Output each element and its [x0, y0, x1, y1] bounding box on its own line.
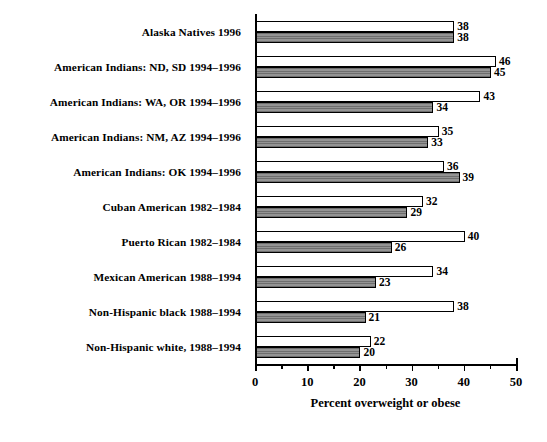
bar-value-label: 32 — [423, 196, 438, 207]
bar-white — [256, 161, 444, 172]
bar-value-label: 26 — [392, 242, 407, 253]
bar-white — [256, 21, 454, 32]
x-axis-major-tick — [464, 365, 466, 371]
category-label: American Indians: NM, AZ 1994–1996 — [0, 131, 241, 143]
x-axis-end-cap — [516, 358, 518, 365]
bar-gray — [256, 242, 392, 253]
x-axis-tick-label: 20 — [339, 375, 379, 389]
x-axis-minor-tick — [386, 365, 388, 369]
x-axis-major-tick — [255, 365, 257, 371]
bar-value-label: 35 — [439, 126, 454, 137]
bar-value-label: 38 — [454, 21, 469, 32]
x-axis-tick-label: 10 — [287, 375, 327, 389]
bar-value-label: 40 — [465, 231, 480, 242]
x-axis-major-tick — [307, 365, 309, 371]
category-label: American Indians: ND, SD 1994–1996 — [0, 61, 241, 73]
category-label: American Indians: OK 1994–1996 — [0, 166, 241, 178]
category-label: Non-Hispanic white, 1988–1994 — [0, 341, 241, 353]
bar-gray — [256, 277, 376, 288]
bar-value-label: 39 — [460, 172, 475, 183]
x-axis-major-tick — [412, 365, 414, 371]
bar-value-label: 33 — [428, 137, 443, 148]
bar-white — [256, 56, 496, 67]
bar-chart: Alaska Natives 1996American Indians: ND,… — [0, 0, 547, 442]
bar-value-label: 38 — [454, 301, 469, 312]
bar-white — [256, 336, 371, 347]
x-axis-major-tick — [359, 365, 361, 371]
bar-value-label: 46 — [496, 56, 511, 67]
x-axis-minor-tick — [281, 365, 283, 369]
x-axis-minor-tick — [438, 365, 440, 369]
category-label: Mexican American 1988–1994 — [0, 271, 241, 283]
bar-value-label: 29 — [407, 207, 422, 218]
category-label: Cuban American 1982–1984 — [0, 201, 241, 213]
bar-gray — [256, 32, 454, 43]
x-axis-tick-label: 40 — [444, 375, 484, 389]
category-label: Alaska Natives 1996 — [0, 26, 241, 38]
bar-value-label: 36 — [444, 161, 459, 172]
plot-area: 3838464543343533363932294026342338212220… — [255, 14, 516, 364]
bar-white — [256, 266, 433, 277]
x-axis-minor-tick — [490, 365, 492, 369]
bar-value-label: 45 — [491, 67, 506, 78]
bar-value-label: 43 — [480, 91, 495, 102]
bar-white — [256, 91, 480, 102]
bar-value-label: 34 — [433, 102, 448, 113]
bar-gray — [256, 207, 407, 218]
category-label: Puerto Rican 1982–1984 — [0, 236, 241, 248]
bar-white — [256, 196, 423, 207]
bar-white — [256, 126, 439, 137]
bar-value-label: 34 — [433, 266, 448, 277]
x-axis-tick-label: 0 — [235, 375, 275, 389]
bar-gray — [256, 172, 460, 183]
category-label: American Indians: WA, OR 1994–1996 — [0, 96, 241, 108]
bar-gray — [256, 312, 366, 323]
x-axis-title: Percent overweight or obese — [255, 396, 516, 411]
bar-value-label: 21 — [366, 312, 381, 323]
x-axis-tick-label: 50 — [496, 375, 536, 389]
bar-gray — [256, 137, 428, 148]
x-axis-major-tick — [516, 365, 518, 371]
bar-value-label: 22 — [371, 336, 386, 347]
x-axis-tick-label: 30 — [392, 375, 432, 389]
bar-gray — [256, 67, 491, 78]
bar-gray — [256, 347, 360, 358]
bar-value-label: 23 — [376, 277, 391, 288]
category-label: Non-Hispanic black 1988–1994 — [0, 306, 241, 318]
bar-white — [256, 231, 465, 242]
bar-gray — [256, 102, 433, 113]
category-labels-column: Alaska Natives 1996American Indians: ND,… — [0, 14, 248, 364]
bar-value-label: 20 — [360, 347, 375, 358]
bar-value-label: 38 — [454, 32, 469, 43]
x-axis-minor-tick — [333, 365, 335, 369]
bar-white — [256, 301, 454, 312]
